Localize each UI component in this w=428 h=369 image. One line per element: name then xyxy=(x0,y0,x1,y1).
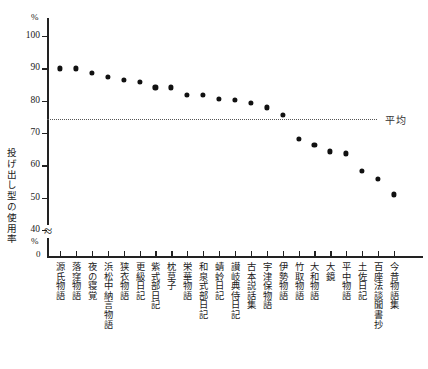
data-point xyxy=(280,112,285,117)
x-axis-label: 更級日記 xyxy=(134,262,144,300)
data-point xyxy=(73,66,78,71)
data-point xyxy=(121,77,126,82)
data-point xyxy=(296,136,301,141)
chart-root: % % 0 ≈ 投げ出し型の使用率 100908070605040 源氏物語落窪… xyxy=(0,0,428,369)
data-point xyxy=(137,79,142,84)
data-point xyxy=(344,151,349,156)
x-axis-label: 源氏物語 xyxy=(55,262,65,300)
x-axis-label: 土佐日記 xyxy=(357,262,367,300)
x-axis-label: 栄華物語 xyxy=(182,262,192,300)
x-axis-label: 讃岐典侍日記 xyxy=(230,262,240,320)
data-point xyxy=(153,85,158,90)
data-point xyxy=(185,93,190,98)
average-line xyxy=(47,119,377,120)
data-point-group xyxy=(0,0,428,369)
x-axis-label: 古本説話集 xyxy=(246,262,256,310)
x-axis-label: 浜松中納言物語 xyxy=(103,262,113,329)
x-axis-label: 百座法談聞書抄 xyxy=(373,262,383,329)
x-axis-label: 枕草子 xyxy=(166,262,176,291)
data-point xyxy=(57,66,62,71)
data-point xyxy=(248,100,253,105)
data-point xyxy=(391,192,396,197)
x-axis-label: 平中物語 xyxy=(341,262,351,300)
data-point xyxy=(105,74,110,79)
x-axis-label: 大和物語 xyxy=(309,262,319,300)
data-point xyxy=(360,168,365,173)
x-axis-label: 紫式部日記 xyxy=(150,262,160,310)
data-point xyxy=(375,176,380,181)
data-point xyxy=(328,149,333,154)
data-point xyxy=(89,70,94,75)
data-point xyxy=(312,143,317,148)
average-line-label: 平均 xyxy=(385,112,406,127)
x-axis-label: 和泉式部日記 xyxy=(198,262,208,320)
x-axis-label: 竹取物語 xyxy=(293,262,303,300)
data-point xyxy=(216,96,221,101)
data-point xyxy=(264,105,269,110)
data-point xyxy=(201,92,206,97)
data-point xyxy=(232,97,237,102)
x-axis-label: 蜻蛉日記 xyxy=(214,262,224,300)
data-point xyxy=(169,85,174,90)
x-axis-label: 狭衣物語 xyxy=(118,262,128,300)
x-axis-label: 大鏡 xyxy=(325,262,335,281)
x-axis-label: 宇津保物語 xyxy=(262,262,272,310)
x-axis-label: 夜の寝覚 xyxy=(87,262,97,300)
x-axis-label: 今昔物語集 xyxy=(389,262,399,310)
x-axis-label: 伊勢物語 xyxy=(277,262,287,300)
x-axis-label: 落窪物語 xyxy=(71,262,81,300)
